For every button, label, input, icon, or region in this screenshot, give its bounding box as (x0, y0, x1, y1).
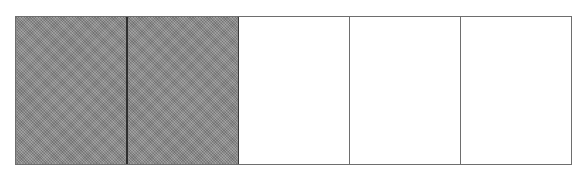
fraction-part-2 (126, 17, 238, 164)
diagram-canvas (0, 0, 576, 175)
fraction-part-1 (16, 17, 126, 164)
fraction-part-3 (238, 17, 349, 164)
fraction-part-5 (460, 17, 571, 164)
fraction-part-4 (349, 17, 460, 164)
fraction-bar (15, 16, 572, 165)
